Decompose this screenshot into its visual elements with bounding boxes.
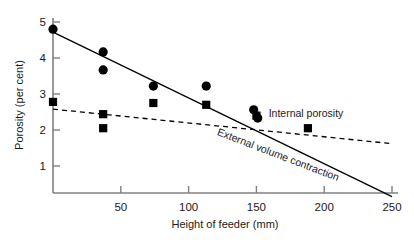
x-tick-label-100: 100 (179, 201, 198, 213)
y-tick-label-3: 3 (40, 88, 46, 100)
data-point-circle (48, 25, 57, 34)
y-tick-label-1: 1 (40, 160, 46, 172)
data-point-circle (99, 65, 108, 74)
x-tick-label-150: 150 (247, 201, 266, 213)
data-point-square (202, 101, 210, 109)
data-point-square (149, 99, 157, 107)
porosity-scatter-chart: 12345 50100150200250 Height of feeder (m… (0, 0, 414, 245)
y-tick-label-4: 4 (40, 52, 47, 64)
x-axis-title: Height of feeder (mm) (172, 218, 279, 230)
data-point-square (304, 124, 312, 132)
data-point-circle (149, 81, 158, 90)
internal-porosity-label: Internal porosity (269, 107, 344, 119)
data-point-circle (99, 47, 108, 56)
y-tick-label-5: 5 (40, 16, 46, 28)
x-tick-label-200: 200 (315, 201, 334, 213)
data-point-circle (202, 81, 211, 90)
data-point-square (99, 124, 107, 132)
y-tick-label-2: 2 (40, 124, 46, 136)
data-point-square (49, 98, 57, 106)
chart-figure: 12345 50100150200250 Height of feeder (m… (0, 0, 414, 245)
x-tick-label-50: 50 (114, 201, 127, 213)
data-point-square (252, 112, 260, 120)
y-axis-title: Porosity (per cent) (13, 60, 25, 150)
data-point-square (99, 110, 107, 118)
x-tick-label-250: 250 (382, 201, 401, 213)
